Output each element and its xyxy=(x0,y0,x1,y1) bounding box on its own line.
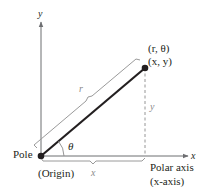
radius-bracket xyxy=(34,59,140,148)
polar-axis-sublabel: (x-axis) xyxy=(150,175,185,187)
polar-axis-label: Polar axis xyxy=(150,161,194,173)
horizontal-x-label: x xyxy=(90,167,96,178)
rect-point-label: (x, y) xyxy=(148,55,172,68)
polar-point-label: (r, θ) xyxy=(148,42,170,55)
pole-point xyxy=(38,153,45,160)
polar-coordinates-diagram: y x y r x θ Pole (Origin) (r, θ) (x, y) … xyxy=(0,0,209,187)
origin-label: (Origin) xyxy=(38,167,74,180)
vertical-y-label: y xyxy=(149,101,155,112)
pole-label: Pole xyxy=(13,148,33,160)
angle-theta-label: θ xyxy=(68,140,74,152)
x-axis-label: x xyxy=(190,150,196,161)
radius-label: r xyxy=(79,83,83,94)
y-axis-label: y xyxy=(37,8,43,19)
angle-arc xyxy=(59,141,65,156)
horizontal-x-bracket xyxy=(41,158,145,164)
radius-line xyxy=(41,68,145,156)
